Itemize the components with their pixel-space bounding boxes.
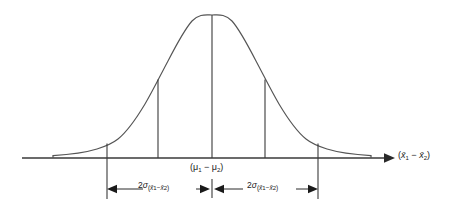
- x-axis-arrowhead: [384, 153, 395, 163]
- mean-minus-sign: −: [204, 162, 209, 172]
- axis-close-paren: ): [427, 150, 430, 160]
- mean-close-paren: ): [220, 162, 223, 172]
- arrowhead-left-outer: [107, 185, 117, 193]
- mean-mu2-subscript: 2: [217, 167, 220, 173]
- sigma-left-sub-close-paren: ): [167, 184, 169, 191]
- x-axis-label: (x̄1 − x̄2): [398, 151, 430, 160]
- sigma-left-label: 2σ(x̄1−x̄2): [138, 181, 169, 190]
- mean-label: (μ1 − μ2): [190, 163, 223, 172]
- sigma-right-sub-close-paren: ): [276, 184, 278, 191]
- arrowhead-right-inner: [214, 185, 224, 193]
- arrowhead-left-inner: [200, 185, 210, 193]
- axis-xbar1-symbol: x̄: [401, 150, 406, 160]
- axis-xbar2-subscript: 2: [424, 155, 427, 161]
- axis-xbar1-subscript: 1: [406, 155, 409, 161]
- distribution-canvas: [0, 0, 469, 211]
- normal-distribution-figure: (μ1 − μ2) (x̄1 − x̄2) 2σ(x̄1−x̄2) 2σ(x̄1…: [0, 0, 469, 211]
- axis-minus-sign: −: [411, 150, 416, 160]
- axis-xbar2-symbol: x̄: [419, 150, 424, 160]
- mean-mu1-subscript: 1: [198, 167, 201, 173]
- sigma-right-label: 2σ(x̄1−x̄2): [247, 181, 278, 190]
- arrowhead-right-outer: [308, 185, 318, 193]
